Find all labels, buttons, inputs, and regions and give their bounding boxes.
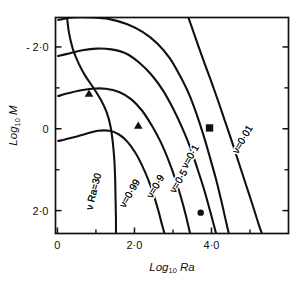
y-tick-label: 2·0 — [33, 205, 49, 217]
svg-text:Log10 M: Log10 M — [7, 105, 22, 146]
marker-triangle-2 — [134, 121, 143, 128]
contour-label-5: ν=0·01ν=0·01 — [230, 123, 255, 156]
figure-container: 02·04·02·00- 2·0Log10 RaLog10 Mν Ra=30ν … — [0, 0, 306, 289]
marker-triangle-1 — [85, 89, 94, 96]
y-tick-label: - 2·0 — [26, 41, 49, 53]
contour-label-0: ν Ra=30ν Ra=30 — [83, 171, 103, 210]
contour-label-1: ν=0·99ν=0·99 — [117, 177, 142, 210]
svg-text:ν=0·1: ν=0·1 — [179, 142, 201, 170]
svg-text:Log10 Ra: Log10 Ra — [149, 261, 194, 276]
contour-plot: 02·04·02·00- 2·0Log10 RaLog10 Mν Ra=30ν … — [0, 0, 306, 289]
marker-square-1 — [206, 124, 213, 131]
x-tick-label: 2·0 — [126, 239, 142, 251]
contour-curve-1 — [58, 130, 164, 233]
contour-label-3: ν=0·5ν=0·5 — [167, 167, 189, 195]
svg-text:ν=0·01: ν=0·01 — [230, 123, 255, 156]
marker-circle-1 — [197, 209, 203, 215]
y-axis-title: Log10 M — [7, 105, 22, 146]
svg-text:ν=0·5: ν=0·5 — [167, 167, 189, 195]
x-tick-label: 0 — [54, 239, 60, 251]
contour-label-4: ν=0·1ν=0·1 — [179, 142, 201, 170]
y-tick-label: 0 — [42, 123, 48, 135]
contour-curve-2 — [58, 88, 190, 233]
svg-text:ν=0·99: ν=0·99 — [117, 177, 142, 210]
x-tick-label: 4·0 — [204, 239, 220, 251]
x-axis-title: Log10 Ra — [149, 261, 194, 276]
contour-curve-3 — [58, 49, 216, 234]
svg-text:ν Ra=30: ν Ra=30 — [83, 171, 103, 210]
